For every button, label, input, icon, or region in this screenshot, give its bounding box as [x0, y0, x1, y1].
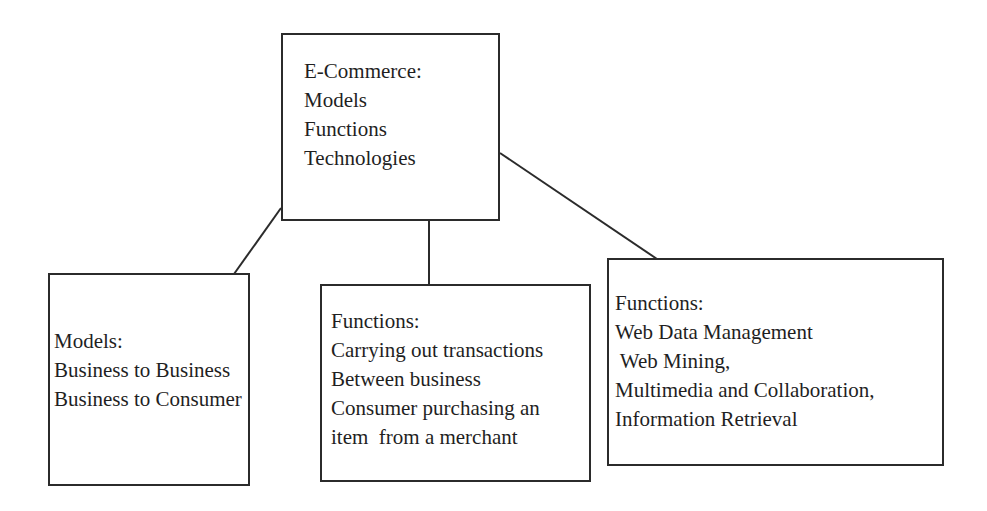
connector-root-to-functions-web — [500, 153, 657, 259]
node-line: Web Data Management — [615, 318, 942, 347]
root-node-title: E-Commerce: — [304, 57, 498, 86]
node-title: Models: — [54, 327, 248, 356]
node-line: Business to Consumer — [54, 385, 248, 414]
node-line: Between business — [331, 365, 589, 394]
node-title: Functions: — [331, 307, 589, 336]
node-line: Business to Business — [54, 356, 248, 385]
node-line: item from a merchant — [331, 423, 589, 452]
node-line: Carrying out transactions — [331, 336, 589, 365]
node-line: Web Mining, — [615, 347, 942, 376]
child-node-functions-transactions: Functions: Carrying out transactions Bet… — [320, 284, 591, 482]
child-node-models: Models: Business to Business Business to… — [48, 273, 250, 486]
node-line: Consumer purchasing an — [331, 394, 589, 423]
root-node-line: Technologies — [304, 144, 498, 173]
root-node-line: Models — [304, 86, 498, 115]
root-node-ecommerce: E-Commerce: Models Functions Technologie… — [281, 33, 500, 221]
node-title: Functions: — [615, 289, 942, 318]
node-line: Multimedia and Collaboration, — [615, 376, 942, 405]
child-node-functions-web: Functions: Web Data Management Web Minin… — [607, 258, 944, 466]
node-line: Information Retrieval — [615, 405, 942, 434]
root-node-line: Functions — [304, 115, 498, 144]
connector-root-to-models — [234, 208, 281, 274]
